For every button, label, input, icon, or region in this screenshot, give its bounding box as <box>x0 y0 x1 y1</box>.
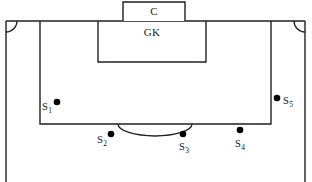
spot-dot-s3 <box>180 131 187 138</box>
spot-label-s2-sub: 2 <box>103 139 107 148</box>
spot-label-s1: S1 <box>42 101 52 112</box>
goal-area-label: GK <box>98 26 206 38</box>
spot-label-s3-base: S <box>179 141 185 152</box>
spot-label-s2-base: S <box>97 134 103 145</box>
corner-arc-left-icon <box>6 21 17 32</box>
spot-label-s5-base: S <box>283 95 289 106</box>
spot-dot-s1 <box>54 99 61 106</box>
spot-dot-s2 <box>108 131 115 138</box>
spot-label-s2: S2 <box>97 134 107 145</box>
goal-box-label: C <box>123 5 185 17</box>
field-diagram: C GK S1 S2 S3 S4 S5 <box>0 0 312 182</box>
corner-arc-right-icon <box>294 21 305 32</box>
spot-dot-s4 <box>237 127 244 134</box>
spot-dot-s5 <box>274 95 281 102</box>
spot-label-s4-sub: 4 <box>241 143 245 152</box>
spot-label-s5-sub: 5 <box>289 100 293 109</box>
spot-label-s1-base: S <box>42 101 48 112</box>
spot-label-s5: S5 <box>283 95 293 106</box>
spot-label-s3: S3 <box>179 141 189 152</box>
spot-label-s4: S4 <box>235 138 245 149</box>
spot-label-s3-sub: 3 <box>185 146 189 155</box>
spot-label-s4-base: S <box>235 138 241 149</box>
spot-label-s1-sub: 1 <box>48 106 52 115</box>
